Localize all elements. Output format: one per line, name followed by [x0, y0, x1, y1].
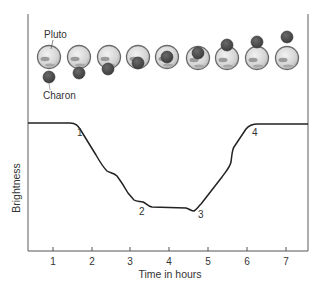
- orbit-sequence: [38, 31, 299, 83]
- charon-body: [251, 36, 263, 48]
- x-tick-label: 3: [127, 256, 133, 267]
- charon-body: [281, 31, 293, 43]
- marker-label-3: 3: [198, 209, 204, 220]
- x-tick-label: 5: [205, 256, 211, 267]
- marker-label-2: 2: [139, 206, 145, 217]
- pluto-body: [68, 46, 91, 69]
- y-axis-title: Brightness: [10, 163, 22, 213]
- eclipse-diagram: 1 2 3 4 5 6 7 Time in hours Brightness 1…: [0, 0, 324, 292]
- x-axis-title: Time in hours: [138, 268, 201, 280]
- x-tick-label: 7: [283, 256, 289, 267]
- pluto-body: [246, 47, 269, 70]
- x-tick-label: 1: [50, 256, 56, 267]
- charon-body: [102, 63, 114, 75]
- pluto-label: Pluto: [44, 29, 67, 40]
- pluto-body: [276, 47, 299, 70]
- x-tick-label: 4: [166, 256, 172, 267]
- brightness-curve: [28, 123, 308, 211]
- charon-label: Charon: [43, 90, 76, 101]
- x-tick-label: 2: [89, 256, 95, 267]
- charon-body: [161, 51, 173, 63]
- charon-body: [43, 71, 55, 83]
- charon-body: [73, 67, 85, 79]
- pluto-body: [38, 46, 61, 69]
- charon-body: [221, 39, 233, 51]
- x-tick-label: 6: [244, 256, 250, 267]
- charon-body: [192, 47, 204, 59]
- marker-label-4: 4: [252, 127, 258, 138]
- x-tick-labels: 1 2 3 4 5 6 7: [50, 256, 289, 267]
- charon-leader-line: [49, 83, 50, 90]
- charon-body: [132, 57, 144, 69]
- marker-label-1: 1: [77, 127, 83, 138]
